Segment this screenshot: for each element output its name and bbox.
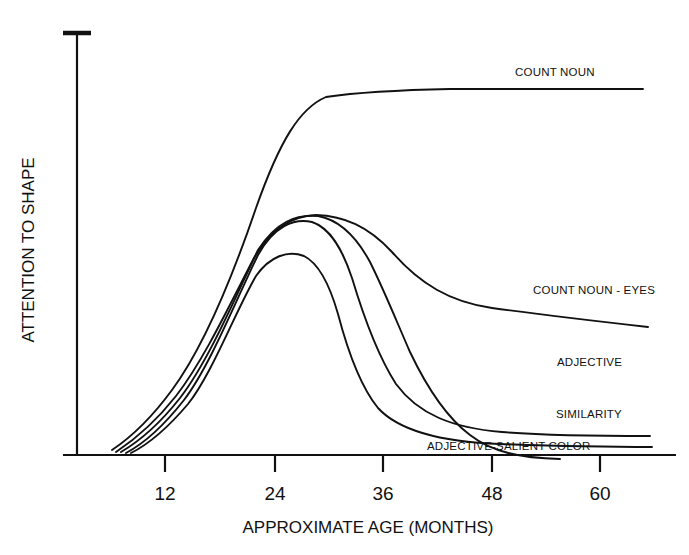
x-tick-label-3: 48 [481,483,502,504]
series-label-adjective-salient-color: ADJECTIVE-SALIENT COLOR [427,440,591,452]
x-axis-label: APPROXIMATE AGE (MONTHS) [243,518,494,537]
x-tick-label-1: 24 [264,483,286,504]
series-label-count-noun-eyes: COUNT NOUN - EYES [533,284,655,296]
x-tick-label-4: 60 [589,483,610,504]
y-axis-label: ATTENTION TO SHAPE [19,157,38,342]
series-curves [112,89,652,459]
series-label-adjective: ADJECTIVE [557,356,622,368]
x-tick-label-2: 36 [372,483,393,504]
series-label-similarity: SIMILARITY [556,408,622,420]
series-label-count-noun: COUNT NOUN [515,66,595,78]
curve-count-noun [112,89,643,450]
attention-to-shape-line-chart: 12 24 36 48 60 APPROXIMATE AGE (MONTHS) … [0,0,689,555]
x-tick-label-0: 12 [154,483,175,504]
chart-figure: 12 24 36 48 60 APPROXIMATE AGE (MONTHS) … [0,0,689,555]
x-axis-tick-labels: 12 24 36 48 60 [154,483,610,504]
series-labels: COUNT NOUN COUNT NOUN - EYES ADJECTIVE S… [427,66,655,452]
